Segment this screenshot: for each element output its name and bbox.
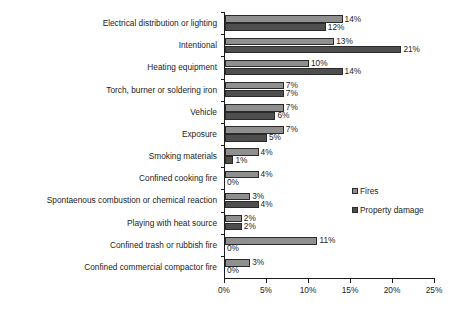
category-label: Electrical distribution or lighting [103, 18, 217, 28]
bar-value-label: 7% [286, 125, 298, 134]
y-axis-tick [221, 189, 224, 190]
bar-property-damage [225, 134, 267, 142]
bar-fires [225, 60, 309, 68]
y-axis-tick [221, 79, 224, 80]
bar-property-damage [225, 90, 284, 98]
plot-area: 0%5%10%15%20%25%14%12%13%21%10%14%7%7%7%… [224, 12, 434, 278]
x-axis-tick-label: 25% [419, 285, 449, 295]
x-axis-tick [392, 279, 393, 283]
bar-value-label: 4% [261, 200, 273, 209]
x-axis-tick [308, 279, 309, 283]
legend-label-property-damage: Property damage [360, 205, 424, 215]
x-axis-tick [266, 279, 267, 283]
bar-property-damage [225, 223, 242, 231]
bar-value-label: 11% [319, 236, 335, 245]
y-axis-tick [221, 256, 224, 257]
x-axis-tick-label: 5% [251, 285, 281, 295]
bar-value-label: 10% [311, 59, 328, 68]
x-axis-tick-label: 15% [335, 285, 365, 295]
bar-value-label: 2% [244, 222, 256, 231]
x-axis-tick [224, 279, 225, 283]
x-axis-tick-label: 10% [293, 285, 323, 295]
bar-value-label: 3% [252, 258, 264, 267]
legend-item-fires: Fires [352, 186, 424, 196]
x-axis-line [224, 278, 435, 279]
bar-chart: Electrical distribution or lightingInten… [0, 0, 458, 318]
category-label: Torch, burner or soldering iron [106, 85, 217, 95]
category-label: Heating equipment [147, 62, 217, 72]
bar-value-label: 0% [227, 178, 239, 187]
category-label: Spontaenous combustion or chemical react… [47, 195, 217, 205]
legend-swatch-property-damage-icon [352, 207, 358, 213]
category-label: Exposure [182, 129, 217, 139]
category-label: Intentional [179, 40, 217, 50]
x-axis-tick-label: 20% [377, 285, 407, 295]
bar-fires [225, 193, 250, 201]
category-label: Confined trash or rubbish fire [110, 240, 217, 250]
x-axis-tick [350, 279, 351, 283]
bar-property-damage [225, 112, 275, 120]
legend-label-fires: Fires [360, 186, 378, 196]
bar-value-label: 7% [286, 89, 298, 98]
category-label: Playing with heat source [127, 218, 217, 228]
bar-fires [225, 15, 343, 23]
category-axis: Electrical distribution or lightingInten… [0, 12, 221, 278]
y-axis-tick [221, 34, 224, 35]
bar-fires [225, 215, 242, 223]
x-axis-tick [434, 279, 435, 283]
bar-value-label: 5% [269, 133, 281, 142]
bar-property-damage [225, 23, 326, 31]
bar-value-label: 0% [227, 266, 239, 275]
legend-item-property-damage: Property damage [352, 205, 424, 215]
y-axis-tick [221, 167, 224, 168]
y-axis-tick [221, 12, 224, 13]
bar-value-label: 21% [403, 45, 420, 54]
category-label: Smoking materials [149, 151, 217, 161]
bar-value-label: 14% [345, 15, 362, 24]
x-axis-tick-label: 0% [209, 285, 239, 295]
category-label: Confined cooking fire [139, 173, 217, 183]
bar-value-label: 6% [277, 111, 289, 120]
bar-property-damage [225, 68, 343, 76]
bar-value-label: 4% [261, 148, 273, 157]
bar-property-damage [225, 156, 233, 164]
bar-value-label: 1% [235, 156, 247, 165]
y-axis-tick [221, 212, 224, 213]
bar-property-damage [225, 201, 259, 209]
bar-fires [225, 104, 284, 112]
bar-value-label: 13% [336, 37, 353, 46]
category-label: Vehicle [190, 107, 217, 117]
bar-property-damage [225, 46, 401, 54]
legend-swatch-fires-icon [352, 188, 358, 194]
bar-value-label: 0% [227, 244, 239, 253]
y-axis-tick [221, 56, 224, 57]
bar-fires [225, 38, 334, 46]
y-axis-tick [221, 145, 224, 146]
y-axis-tick [221, 234, 224, 235]
bar-fires [225, 82, 284, 90]
y-axis-tick [221, 101, 224, 102]
category-label: Confined commercial compactor fire [84, 262, 217, 272]
chart-legend: Fires Property damage [352, 186, 424, 224]
bar-value-label: 12% [328, 23, 345, 32]
bar-value-label: 14% [345, 67, 362, 76]
bar-value-label: 4% [261, 170, 273, 179]
y-axis-tick [221, 123, 224, 124]
